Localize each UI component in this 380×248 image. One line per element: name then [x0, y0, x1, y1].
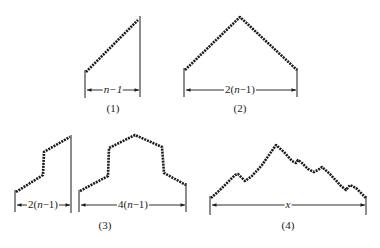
- dimension-label-3-right: 4(n−1): [117, 199, 149, 210]
- dimension-label-2-n-minus-1: 2(n−1): [224, 84, 256, 95]
- caption-panel-1: (1): [107, 103, 120, 114]
- panel-4-curve: [211, 145, 366, 198]
- dimension-label-n-minus-1: n−1: [103, 84, 123, 95]
- panel-3-left-curve: [16, 137, 70, 192]
- caption-panel-3: (3): [99, 220, 112, 231]
- dimension-label-x: x: [285, 199, 292, 210]
- dimension-label-3-left: 2(n−1): [27, 199, 59, 210]
- panel-1-curve: [86, 20, 138, 72]
- panel-2-curve: [185, 17, 297, 70]
- diagram-canvas: [0, 0, 380, 248]
- caption-panel-4: (4): [282, 220, 295, 231]
- caption-panel-2: (2): [234, 103, 247, 114]
- panel-3-right-curve: [80, 135, 186, 191]
